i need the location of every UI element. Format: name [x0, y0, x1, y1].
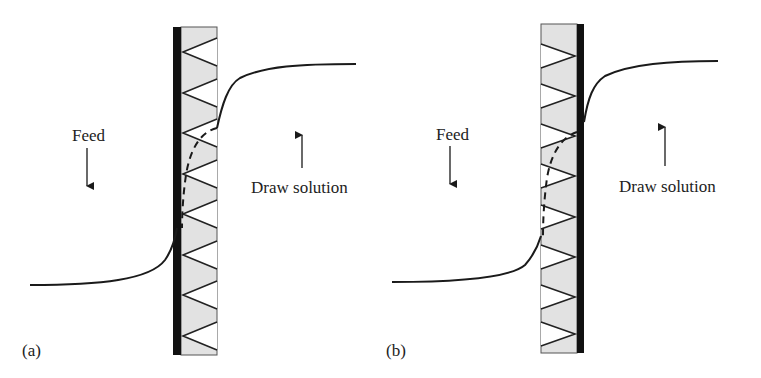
active-layer	[173, 27, 181, 355]
draw-solution-label: Draw solution	[619, 177, 716, 196]
feed-label: Feed	[436, 125, 470, 144]
feed-label: Feed	[72, 126, 106, 145]
panel-label-a: (a)	[22, 341, 41, 360]
feed-concentration-curve	[392, 236, 541, 282]
panel-label-b: (b)	[386, 341, 406, 360]
panel-b: Feed Draw solution (b)	[386, 24, 718, 360]
draw-concentration-curve	[584, 61, 718, 122]
draw-concentration-curve	[217, 64, 356, 128]
diagram-canvas: Feed Draw solution (a) Feed Dra	[0, 0, 761, 378]
panel-a: Feed Draw solution (a)	[22, 27, 356, 360]
feed-concentration-curve	[30, 228, 177, 285]
active-layer	[577, 24, 584, 353]
draw-solution-label: Draw solution	[251, 178, 348, 197]
